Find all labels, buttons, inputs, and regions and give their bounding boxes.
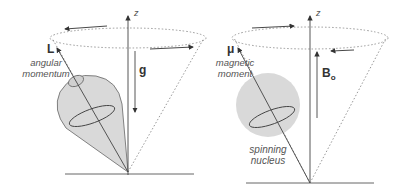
diagram-canvas	[0, 0, 402, 196]
mu-label: μ	[227, 42, 234, 56]
g-label: g	[139, 63, 146, 77]
precession-arrow-bottom	[331, 50, 354, 51]
z-axis-label: z	[134, 8, 139, 18]
label-line-1: angular	[20, 57, 72, 68]
z-axis-label: z	[316, 8, 321, 18]
label-line-2: momentum	[20, 68, 72, 79]
left-panel	[50, 16, 206, 175]
angular-momentum-label: angular momentum	[20, 57, 72, 79]
spinning-nucleus-label: spinning nucleus	[238, 144, 298, 166]
label-line-1: spinning	[238, 144, 298, 155]
cone-right	[128, 38, 204, 172]
label-line-1: magnetic	[210, 57, 260, 68]
precession-diagram: L angular momentum g z μ magnetic moment…	[0, 0, 402, 196]
label-line-2: moment	[210, 68, 260, 79]
B0-subscript: o	[331, 73, 336, 82]
magnetic-moment-label: magnetic moment	[210, 57, 260, 79]
precession-arrow-bottom	[150, 47, 193, 49]
label-line-2: nucleus	[238, 155, 298, 166]
B0-label: Bo	[322, 66, 336, 82]
precession-arrow-top	[65, 26, 107, 29]
cone-right	[310, 38, 386, 183]
B0-main: B	[322, 66, 331, 80]
L-label: L	[47, 42, 54, 56]
